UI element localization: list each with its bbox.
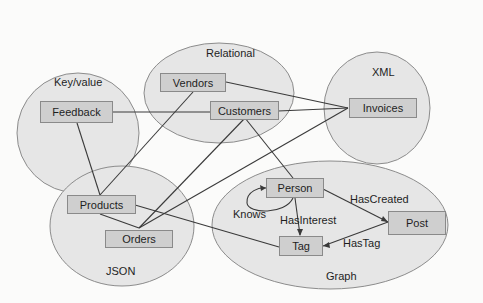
edge-label-has-created: HasCreated bbox=[350, 194, 409, 205]
node-products[interactable]: Products bbox=[67, 195, 136, 214]
node-orders[interactable]: Orders bbox=[105, 230, 173, 248]
diagram-canvas bbox=[0, 0, 483, 303]
node-person[interactable]: Person bbox=[266, 178, 324, 198]
group-label-json: JSON bbox=[106, 266, 135, 277]
node-feedback[interactable]: Feedback bbox=[40, 101, 113, 123]
group-label-relational: Relational bbox=[206, 48, 255, 59]
node-vendors[interactable]: Vendors bbox=[160, 73, 226, 92]
group-label-xml: XML bbox=[372, 67, 395, 78]
node-post[interactable]: Post bbox=[388, 211, 446, 235]
node-tag[interactable]: Tag bbox=[279, 236, 323, 256]
node-customers[interactable]: Customers bbox=[210, 101, 279, 120]
group-label-graph: Graph bbox=[326, 271, 357, 282]
edge-label-knows: Knows bbox=[233, 209, 266, 220]
edge-label-has-tag: HasTag bbox=[343, 238, 380, 249]
edge-label-has-interest: HasInterest bbox=[280, 215, 336, 226]
group-label-keyvalue: Key/value bbox=[54, 77, 102, 88]
node-invoices[interactable]: Invoices bbox=[349, 98, 417, 118]
